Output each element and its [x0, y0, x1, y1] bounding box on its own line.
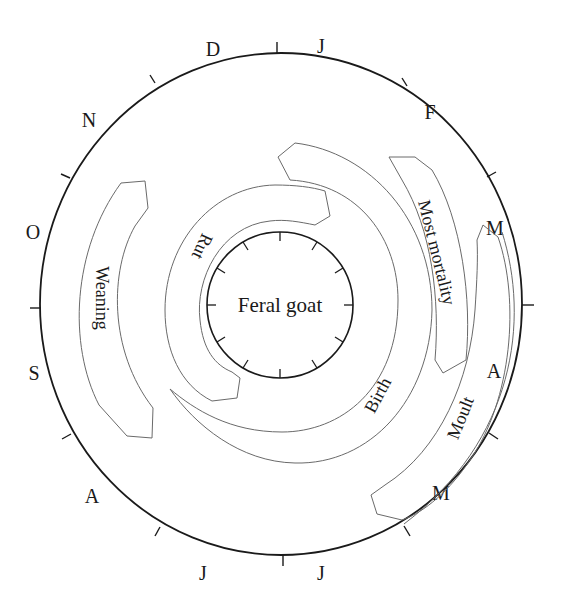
month-label-nov: N: [82, 109, 96, 131]
feral-goat-annual-cycle-diagram: J F M A M J J A S O N D Weaning Rut Birt…: [0, 0, 565, 600]
month-label-feb: F: [424, 101, 435, 123]
month-label-oct: O: [26, 221, 40, 243]
weaning-label: Weaning: [92, 266, 112, 330]
month-label-apr: A: [487, 360, 502, 382]
rut-label: Rut: [188, 231, 217, 263]
birth-label: Birth: [360, 374, 395, 416]
inner-clock: Feral goat: [207, 232, 353, 378]
month-label-jan: J: [317, 35, 325, 57]
moult-label: Moult: [443, 394, 478, 442]
month-label-jun: J: [317, 562, 325, 584]
most-mortality-band: Most mortality: [389, 157, 468, 373]
month-label-dec: D: [206, 38, 220, 60]
month-label-aug: A: [85, 485, 100, 507]
center-label: Feral goat: [238, 293, 323, 317]
month-label-mar: M: [486, 217, 504, 239]
month-label-sep: S: [28, 362, 39, 384]
month-label-jul: J: [199, 562, 207, 584]
weaning-band: Weaning: [79, 181, 153, 438]
most-mortality-label: Most mortality: [414, 198, 459, 307]
